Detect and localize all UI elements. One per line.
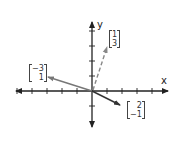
vector-neg3-1	[48, 77, 92, 91]
y-axis	[89, 22, 95, 127]
vector-label-1-3-bottom: 3	[112, 39, 117, 48]
vector-label-2-neg1-top: 2	[130, 101, 142, 110]
y-axis-label: y	[97, 20, 103, 30]
vector-label-neg3-1-top: −3	[32, 64, 44, 73]
vector-label-neg3-1: −3 1	[29, 64, 47, 82]
vector-label-1-3-top: 1	[112, 30, 117, 39]
x-axis-label: x	[161, 76, 167, 86]
vector-label-2-neg1-bottom: −1	[130, 110, 142, 119]
vector-label-neg3-1-bottom: 1	[32, 73, 44, 82]
vector-2-neg1	[92, 91, 120, 105]
vector-label-1-3: 1 3	[109, 30, 120, 48]
vector-label-2-neg1: 2 −1	[127, 101, 145, 119]
vector-diagram	[0, 0, 178, 147]
vector-1-3	[93, 47, 107, 90]
